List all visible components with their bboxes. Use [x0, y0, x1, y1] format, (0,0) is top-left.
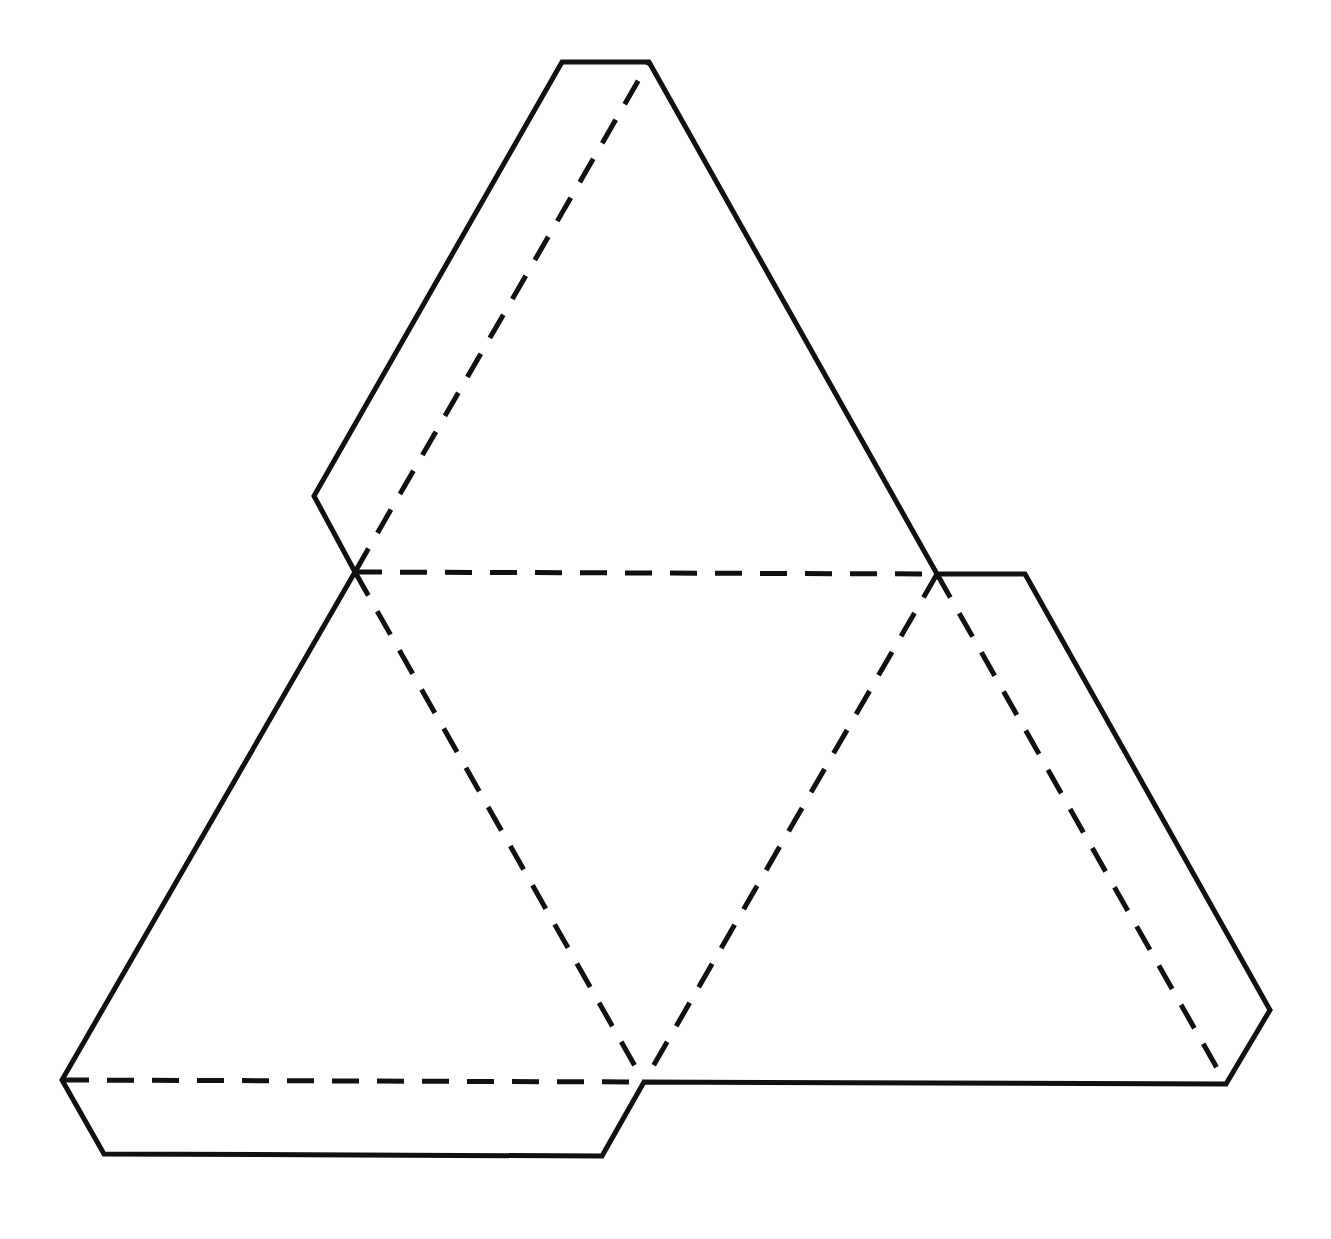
fold-line — [62, 1080, 644, 1082]
fold-line — [355, 572, 644, 1082]
tetrahedron-net-diagram — [0, 0, 1331, 1239]
fold-line — [355, 572, 937, 574]
fold-line — [937, 574, 1226, 1084]
fold-line — [644, 574, 937, 1082]
net-outline — [62, 62, 1270, 1156]
fold-lines — [62, 62, 1226, 1084]
fold-line — [355, 62, 649, 572]
